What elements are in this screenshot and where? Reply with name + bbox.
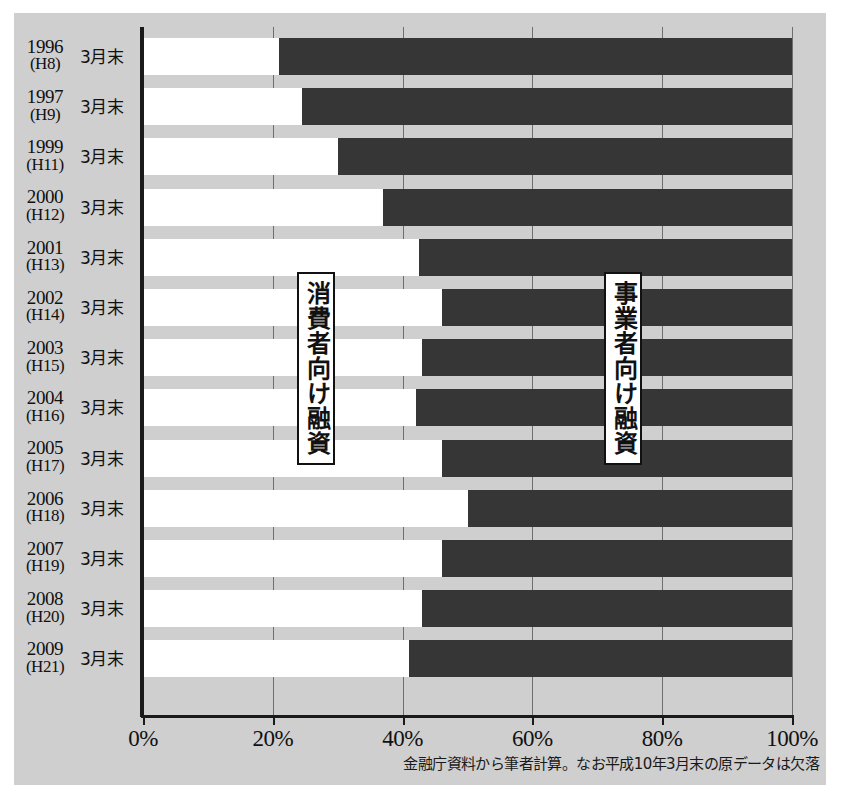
x-axis-label-0: 0% (128, 726, 158, 752)
y-axis-label: 2003(H15)3月末 (16, 338, 140, 375)
bar-row (143, 590, 792, 627)
y-axis-label: 2002(H14)3月末 (16, 288, 140, 325)
bar-segment-business-loans (422, 590, 792, 627)
y-axis-label: 2006(H18)3月末 (16, 489, 140, 526)
y-axis-label-month: 3月末 (80, 93, 123, 118)
bar-segment-consumer-loans (143, 289, 442, 326)
stacked-bar-chart: 1996(H8)3月末1997(H9)3月末1999(H11)3月末2000(H… (0, 0, 841, 809)
y-axis-label-month: 3月末 (80, 445, 123, 470)
bar-row (143, 289, 792, 326)
legend-callout-business-loans: 事業者向け融資 (604, 272, 642, 465)
bar-segment-business-loans (279, 38, 792, 75)
bar-row (143, 339, 792, 376)
y-axis-label-month: 3月末 (80, 194, 123, 219)
y-axis-label-era: (H14) (26, 307, 64, 324)
y-axis-label-era: (H12) (26, 207, 64, 224)
x-tick-0 (143, 715, 145, 725)
y-axis-label-era: (H17) (26, 458, 64, 475)
x-tick-80 (662, 715, 664, 725)
y-axis-label: 2001(H13)3月末 (16, 238, 140, 275)
chart-footnote: 金融庁資料から筆者計算。なお平成10年3月末の原データは欠落 (403, 752, 819, 773)
bar-row (143, 490, 792, 527)
bar-segment-consumer-loans (143, 38, 279, 75)
y-axis-label-era: (H8) (30, 56, 60, 73)
x-axis-line (141, 715, 794, 718)
bar-row (143, 189, 792, 226)
bar-segment-consumer-loans (143, 640, 409, 677)
bar-segment-consumer-loans (143, 189, 383, 226)
y-axis-label-era: (H21) (26, 659, 64, 676)
bar-row (143, 38, 792, 75)
gridline-100 (792, 27, 793, 715)
bar-segment-consumer-loans (143, 138, 338, 175)
y-axis-label-year: 2008 (27, 590, 63, 609)
y-axis-label-era: (H13) (26, 257, 64, 274)
y-axis-label: 2008(H20)3月末 (16, 589, 140, 626)
y-axis-label-era: (H18) (26, 508, 64, 525)
x-tick-20 (273, 715, 275, 725)
bar-row (143, 540, 792, 577)
y-axis-label: 2007(H19)3月末 (16, 539, 140, 576)
bar-row (143, 88, 792, 125)
bar-row (143, 138, 792, 175)
y-axis-label-month: 3月末 (80, 244, 123, 269)
y-axis-label-month: 3月末 (80, 344, 123, 369)
x-tick-40 (403, 715, 405, 725)
y-axis-label: 2000(H12)3月末 (16, 188, 140, 225)
bar-segment-business-loans (302, 88, 792, 125)
bar-segment-consumer-loans (143, 490, 468, 527)
bar-row (143, 239, 792, 276)
y-axis-label-month: 3月末 (80, 294, 123, 319)
bar-segment-consumer-loans (143, 389, 416, 426)
y-axis-label-era: (H19) (26, 558, 64, 575)
bar-segment-consumer-loans (143, 540, 442, 577)
y-axis-label-year: 1997 (27, 88, 63, 107)
y-axis-label-era: (H15) (26, 358, 64, 375)
bar-segment-consumer-loans (143, 88, 302, 125)
bar-segment-consumer-loans (143, 239, 419, 276)
bar-segment-business-loans (409, 640, 792, 677)
bar-segment-consumer-loans (143, 590, 422, 627)
y-axis-label-month: 3月末 (80, 143, 123, 168)
bar-segment-business-loans (468, 490, 793, 527)
legend-label-consumer-loans: 消費者向け融資 (304, 281, 328, 456)
legend-label-business-loans: 事業者向け融資 (611, 281, 635, 456)
bar-segment-business-loans (383, 189, 792, 226)
y-axis-label-month: 3月末 (80, 394, 123, 419)
bar-row (143, 640, 792, 677)
y-axis-label-era: (H20) (26, 609, 64, 626)
y-axis-label: 2009(H21)3月末 (16, 639, 140, 676)
y-axis-label-month: 3月末 (80, 595, 123, 620)
legend-callout-consumer-loans: 消費者向け融資 (297, 272, 335, 465)
y-axis-label-month: 3月末 (80, 645, 123, 670)
y-axis-label-year: 2003 (27, 339, 63, 358)
y-axis-label-era: (H11) (26, 157, 63, 174)
x-tick-60 (532, 715, 534, 725)
y-axis-label: 1996(H8)3月末 (16, 37, 140, 74)
y-axis-label: 2005(H17)3月末 (16, 439, 140, 476)
y-axis-label: 1997(H9)3月末 (16, 87, 140, 124)
y-axis-line (140, 27, 144, 717)
y-axis-label-month: 3月末 (80, 43, 123, 68)
bar-segment-business-loans (338, 138, 792, 175)
bar-segment-business-loans (442, 540, 792, 577)
x-axis-label-80: 80% (642, 726, 683, 752)
y-axis-label: 2004(H16)3月末 (16, 388, 140, 425)
bar-segment-consumer-loans (143, 339, 422, 376)
y-axis-label-era: (H16) (26, 408, 64, 425)
x-tick-100 (792, 715, 794, 725)
bar-row (143, 440, 792, 477)
bar-row (143, 389, 792, 426)
y-axis-label-era: (H9) (30, 107, 60, 124)
y-axis-label-month: 3月末 (80, 545, 123, 570)
x-axis-label-100: 100% (766, 726, 818, 752)
x-axis-label-40: 40% (382, 726, 423, 752)
bar-segment-business-loans (419, 239, 792, 276)
x-axis-label-60: 60% (512, 726, 553, 752)
y-axis-label-month: 3月末 (80, 495, 123, 520)
x-axis-label-20: 20% (252, 726, 293, 752)
bar-segment-consumer-loans (143, 440, 442, 477)
y-axis-label: 1999(H11)3月末 (16, 137, 140, 174)
